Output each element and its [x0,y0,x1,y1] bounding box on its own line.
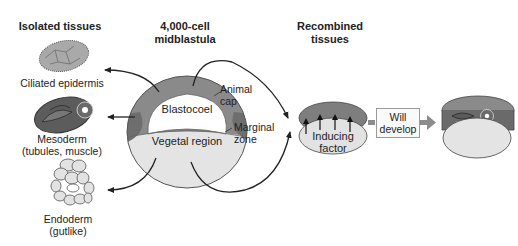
endoderm-icon [51,159,94,205]
label-mesoderm: Mesoderm (tubules, muscle) [10,133,114,157]
header-midblastula: 4,000-cell midblastula [135,20,235,46]
ciliated-epidermis-icon [36,36,91,76]
label-inducing-line2: factor [300,142,366,154]
label-animal-cap-line1: Animal [220,83,260,95]
label-endoderm-line1: Endoderm [20,213,116,225]
gray-connector [368,120,375,125]
label-endoderm: Endoderm (gutlike) [20,213,116,237]
label-blastocoel: Blastocoel [147,103,227,115]
header-recombined: Recombined tissues [290,20,370,46]
will-develop-line1: Will [377,111,419,123]
label-marginal-zone-line2: zone [234,133,284,145]
label-animal-cap-line2: cap [220,95,260,107]
label-endoderm-line2: (gutlike) [20,225,116,237]
header-recombined-line2: tissues [290,33,370,46]
header-recombined-line1: Recombined [290,20,370,33]
mesoderm-icon [31,91,96,138]
header-midblastula-line1: 4,000-cell [135,20,235,33]
label-inducing-factor: Inducing factor [300,130,366,154]
label-mesoderm-line1: Mesoderm [10,133,114,145]
label-ciliated-epidermis: Ciliated epidermis [10,77,114,89]
will-develop-line2: develop [377,123,419,135]
label-animal-cap: Animal cap [220,83,260,107]
label-marginal-zone: Marginal zone [234,121,284,145]
header-midblastula-line2: midblastula [135,33,235,46]
gray-arrow [420,115,436,130]
header-isolated-tissues: Isolated tissues [10,20,110,33]
label-mesoderm-line2: (tubules, muscle) [10,145,114,157]
result-tissue [442,96,514,158]
label-vegetal-region: Vegetal region [137,135,237,147]
label-marginal-zone-line1: Marginal [234,121,284,133]
label-inducing-line1: Inducing [300,130,366,142]
will-develop-box: Will develop [376,108,420,138]
